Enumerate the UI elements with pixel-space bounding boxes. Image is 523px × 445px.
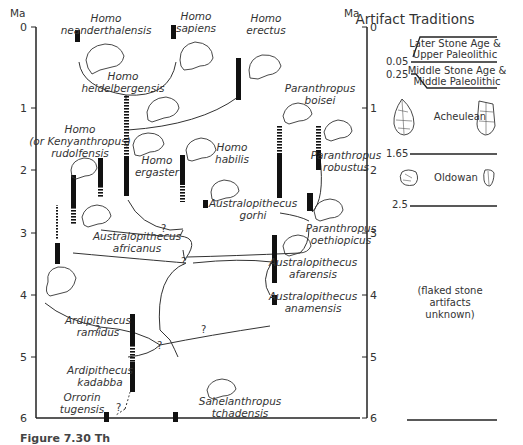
species-name: sapiens [176,22,217,34]
tradition-line: Upper Paleolithic [413,49,497,60]
species-name: robustus [323,161,369,173]
tradition-line: Middle Stone Age & [408,65,507,76]
range-bar-boisei [277,153,282,198]
range-bar-habilis-striped [180,185,185,202]
skull-icon [46,267,76,296]
axis-unit-left: Ma [10,7,26,19]
artifact-title: Artifact Traditions [355,11,474,27]
tick-label: 2 [370,164,377,177]
range-bar-habilis [180,155,185,185]
range-bar-boisei-striped [277,125,282,153]
species-name: heidelbergensis [81,82,165,94]
skull-icon [180,42,213,70]
species-name: afarensis [289,268,337,280]
range-bar-gorhi [203,200,208,208]
range-bar-heidelbergensis-striped [124,96,129,156]
question-mark: ? [116,402,121,413]
skull-icon [186,138,216,161]
species-genus: Homo [65,123,96,135]
species-genus: Orrorin [63,391,100,403]
tick-label: 0 [20,21,27,34]
boundary-label: 0.25 [386,69,408,80]
tick-label: 4 [370,289,377,302]
species-genus: Homo [181,10,212,22]
species-name: rudolfensis [51,147,109,159]
tick-label: 5 [370,351,377,364]
unknown-line: unknown) [425,309,474,320]
species-genus: Homo [217,141,248,153]
skull-icon [249,55,281,79]
figure-caption: Figure 7.30 Th [20,432,110,445]
species-alt: (or Kenyanthropus) [29,135,131,147]
species-name: ergaster [135,166,180,178]
skull-icon [133,133,164,156]
tick-label: 1 [20,102,27,115]
species-genus: Australopithecus [208,197,298,209]
boundary-label: 1.65 [386,148,408,159]
species-name: kadabba [77,376,122,388]
range-bar-ramidus-striped [130,346,135,362]
range-bar-aethiopicus [307,193,313,211]
range-bar-tchadensis [173,412,178,422]
species-genus: Homo [108,70,139,82]
species-genus: Homo [142,154,173,166]
right-time-axis: Ma 0 1 2 3 4 5 6 [344,7,377,425]
tick-label: 3 [20,227,27,240]
tick-label: 4 [20,289,27,302]
species-name: neanderthalensis [61,24,152,36]
skull-icon [283,103,312,124]
species-genus: Australopithecus [268,290,358,302]
species-genus: Ardipithecus [66,364,133,376]
species-genus: Homo [251,12,282,24]
tradition-name: Oldowan [434,172,478,183]
lineage-connectors [45,62,321,415]
tick-label: 6 [370,412,377,425]
species-name: anamensis [285,302,342,314]
range-bar-rudolfensis [98,158,103,186]
question-mark: ? [157,340,162,351]
range-bar-erectus [236,58,241,100]
range-bar-early-australopith [55,243,60,264]
species-name: boisei [305,94,336,106]
species-name: tugensis [60,403,105,415]
species-name: erectus [246,24,286,36]
tick-label: 1 [370,102,377,115]
unknown-line: (flaked stone [417,285,482,296]
range-bar-africanus-striped [71,207,76,224]
range-bar-rudolfensis-striped [98,186,103,198]
range-bar-early-australopith-dotted [56,205,58,240]
tick-label: 6 [20,412,27,425]
species-name: oethiopicus [311,234,372,246]
species-name: africanus [113,242,162,254]
species-name: tchadensis [212,407,269,419]
species-genus: Sahelanthropus [199,395,282,407]
range-bar-robustus-striped [316,125,321,150]
unknown-line: artifacts [429,297,470,308]
tick-label: 5 [20,351,27,364]
species-genus: Paranthropus [311,149,382,161]
skull-icon [324,120,352,141]
species-genus: Paranthropus [285,82,356,94]
tradition-line: Later Stone Age & [409,38,501,49]
question-mark: ? [201,324,206,335]
tradition-line: Middle Paleolithic [413,76,500,87]
species-genus: Ardipithecus [64,314,131,326]
species-genus: Homo [91,12,122,24]
species-name: gorhi [240,209,267,221]
species-name: habilis [215,153,250,165]
boundary-label: 0.05 [386,56,408,67]
species-genus: Paranthropus [306,222,377,234]
chopper-icon [400,170,417,186]
tick-label: 2 [20,164,27,177]
boundary-label: 2.5 [392,199,408,210]
range-bar-heidelbergensis [124,156,129,196]
artifact-traditions-panel: Artifact Traditions Later Stone Age & Up… [355,11,506,420]
range-bar-africanus [71,175,76,207]
question-mark: ? [181,256,186,267]
species-name: ramidus [77,326,120,338]
species-genus: Australopithecus [268,256,358,268]
skull-icon [147,97,179,122]
species-genus: Australopithecus [92,230,182,242]
skull-icon [82,205,111,227]
